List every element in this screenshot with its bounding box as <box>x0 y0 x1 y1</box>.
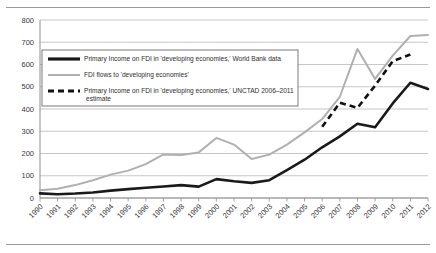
x-tick-label: 2011 <box>398 202 416 220</box>
y-tick-label: 400 <box>21 105 34 114</box>
x-axis-tick-marks <box>40 198 428 202</box>
top-divider-rule <box>6 7 430 8</box>
y-tick-label: 0 <box>30 194 34 203</box>
legend-label: estimate <box>86 95 111 102</box>
x-tick-label: 1992 <box>62 202 80 220</box>
x-tick-label: 1990 <box>27 202 45 220</box>
x-tick-label: 2000 <box>203 202 221 220</box>
x-tick-label: 2003 <box>256 202 274 220</box>
y-tick-label: 300 <box>21 127 34 136</box>
x-tick-label: 1998 <box>168 202 186 220</box>
chart-plot-area: 0100200300400500600700800 19901991199219… <box>0 12 436 240</box>
chart-legend: Primary Income on FDI in 'developing eco… <box>42 50 298 106</box>
x-axis-tick-labels: 1990199119921993199419951996199719981999… <box>27 202 433 220</box>
x-tick-label: 2006 <box>309 202 327 220</box>
bottom-divider-rule <box>6 244 430 245</box>
x-tick-label: 2008 <box>344 202 362 220</box>
figure-container: 0100200300400500600700800 19901991199219… <box>0 0 436 253</box>
x-tick-label: 1994 <box>97 202 115 220</box>
x-tick-label: 2005 <box>291 202 309 220</box>
legend-label: Primary Income on FDI in 'developing eco… <box>84 55 281 63</box>
x-tick-label: 1996 <box>133 202 151 220</box>
x-tick-label: 2009 <box>362 202 380 220</box>
x-tick-label: 2010 <box>379 202 397 220</box>
x-tick-label: 2007 <box>327 202 345 220</box>
x-tick-label: 2002 <box>238 202 256 220</box>
x-tick-label: 2012 <box>415 202 433 220</box>
y-tick-label: 700 <box>21 38 34 47</box>
gridlines-group <box>40 20 428 198</box>
y-tick-label: 100 <box>21 171 34 180</box>
x-tick-label: 1991 <box>44 202 62 220</box>
x-tick-label: 2004 <box>274 202 292 220</box>
x-tick-label: 1999 <box>185 202 203 220</box>
y-tick-label: 500 <box>21 82 34 91</box>
y-tick-label: 600 <box>21 60 34 69</box>
x-tick-label: 1993 <box>80 202 98 220</box>
y-axis-tick-labels: 0100200300400500600700800 <box>21 16 34 203</box>
y-tick-label: 800 <box>21 16 34 25</box>
legend-label: Primary Income on FDI in 'developing eco… <box>84 87 294 95</box>
x-tick-label: 1997 <box>150 202 168 220</box>
legend-label: FDI flows to 'developing economies' <box>84 71 189 79</box>
x-tick-label: 2001 <box>221 202 239 220</box>
x-tick-label: 1995 <box>115 202 133 220</box>
y-tick-label: 200 <box>21 149 34 158</box>
line-chart-svg: 0100200300400500600700800 19901991199219… <box>0 12 436 240</box>
